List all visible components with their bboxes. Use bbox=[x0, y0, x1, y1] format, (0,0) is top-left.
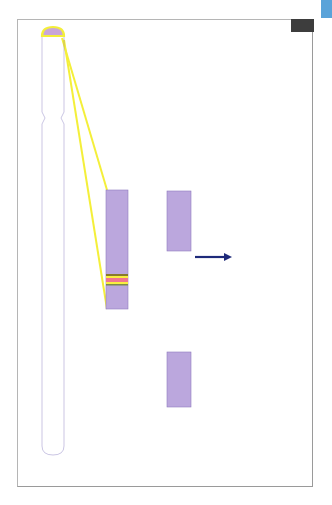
normal-cag-repeat bbox=[106, 274, 128, 276]
normal-gene-segment bbox=[106, 190, 128, 309]
disease-gene-segment bbox=[167, 191, 191, 407]
chromosome-outline bbox=[42, 36, 64, 455]
connector-line-bottom bbox=[64, 40, 107, 309]
zoom-connector-lines bbox=[62, 38, 107, 309]
chromosome-4 bbox=[42, 27, 64, 455]
arrow-head-icon bbox=[224, 253, 232, 261]
translation-arrow bbox=[195, 253, 232, 261]
htt-gene-highlight bbox=[42, 27, 64, 36]
htt-diagram bbox=[0, 0, 332, 505]
